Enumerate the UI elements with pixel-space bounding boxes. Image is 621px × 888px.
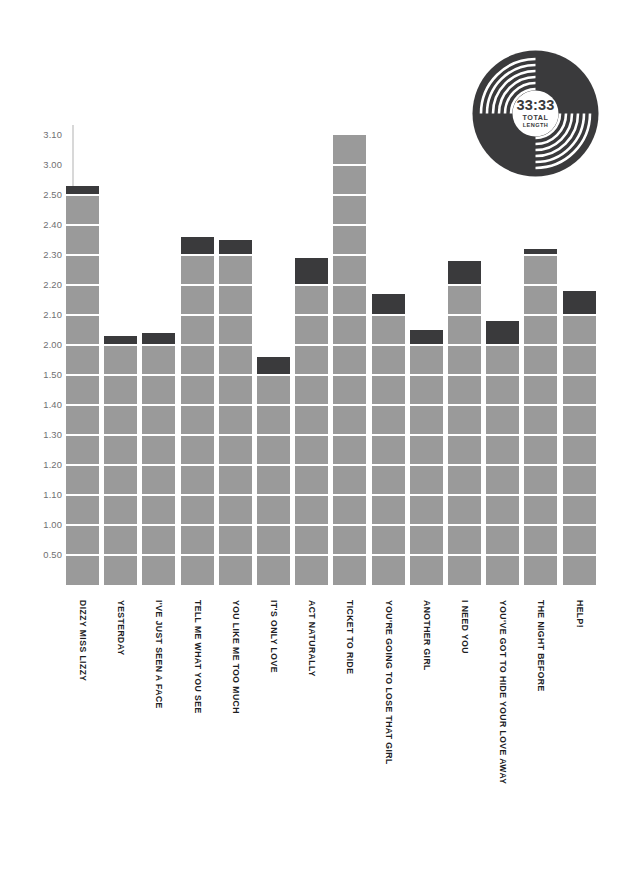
bar-gridline: [372, 464, 405, 466]
bar-remainder-cap: [486, 321, 519, 345]
bar-gridline: [372, 404, 405, 406]
x-axis-label: HELP!: [575, 600, 585, 628]
bar-gridline: [66, 494, 99, 496]
y-tick-label: 3.00: [0, 159, 62, 170]
bar-gridline: [181, 374, 214, 376]
bar-gridline: [448, 284, 481, 286]
bar-gridline: [257, 554, 290, 556]
album-track-length-chart: 33:33 TOTAL LENGTH 3.103.002.502.402.302…: [0, 0, 621, 888]
bar-column: [333, 135, 366, 585]
bar: [563, 291, 596, 585]
bar-gridline: [295, 284, 328, 286]
bar-column: [410, 330, 443, 585]
y-tick-label: 1.40: [0, 399, 62, 410]
bar-gridline: [448, 434, 481, 436]
bar-remainder-cap: [448, 261, 481, 285]
bar-gridline: [257, 374, 290, 376]
bar-gridline: [333, 494, 366, 496]
bar-remainder-cap: [563, 291, 596, 315]
bar-gridline: [448, 494, 481, 496]
bar-gridline: [333, 464, 366, 466]
x-axis-label: YOU LIKE ME TOO MUCH: [231, 600, 241, 714]
bar-gridline: [219, 404, 252, 406]
bar-column: [524, 249, 557, 585]
bar-gridline: [181, 464, 214, 466]
bar-gridline: [372, 524, 405, 526]
bar-gridline: [181, 494, 214, 496]
bar-gridline: [448, 314, 481, 316]
bar-gridline: [486, 374, 519, 376]
bar-remainder-cap: [295, 258, 328, 285]
bar-gridline: [104, 374, 137, 376]
x-axis-label: I'VE JUST SEEN A FACE: [154, 600, 164, 709]
x-axis-label: TICKET TO RIDE: [345, 600, 355, 674]
bar-column: [104, 336, 137, 585]
bar-gridline: [410, 404, 443, 406]
bar-gridline: [142, 524, 175, 526]
bar-gridline: [372, 434, 405, 436]
bar-gridline: [104, 344, 137, 346]
bar-gridline: [333, 224, 366, 226]
bar-gridline: [333, 254, 366, 256]
bar-gridline: [257, 494, 290, 496]
bar-gridline: [448, 374, 481, 376]
bar-gridline: [181, 554, 214, 556]
bar-gridline: [257, 464, 290, 466]
bar-gridline: [333, 284, 366, 286]
bar-gridline: [181, 344, 214, 346]
bar: [219, 240, 252, 585]
bar-gridline: [486, 434, 519, 436]
bar-gridline: [66, 434, 99, 436]
bar-gridline: [104, 434, 137, 436]
bar-gridline: [219, 344, 252, 346]
x-axis-label: DIZZY MISS LIZZY: [78, 600, 88, 682]
bar-gridline: [524, 374, 557, 376]
bar-column: [142, 333, 175, 585]
bar-gridline: [333, 434, 366, 436]
bar-gridline: [219, 254, 252, 256]
bar: [181, 237, 214, 585]
bar-gridline: [333, 404, 366, 406]
y-tick-label: 2.10: [0, 309, 62, 320]
bar-gridline: [333, 164, 366, 166]
bar-gridline: [104, 404, 137, 406]
bar-column: [295, 258, 328, 585]
bar-gridline: [486, 464, 519, 466]
bar-gridline: [219, 494, 252, 496]
bar-gridline: [66, 374, 99, 376]
bar-gridline: [104, 524, 137, 526]
bar-gridline: [524, 464, 557, 466]
bar-gridline: [448, 404, 481, 406]
bar-gridline: [295, 554, 328, 556]
bar-gridline: [104, 554, 137, 556]
bar-gridline: [142, 374, 175, 376]
bar-gridline: [524, 494, 557, 496]
bar-column: [219, 240, 252, 585]
bar-gridline: [563, 464, 596, 466]
x-axis-label: YOU'VE GOT TO HIDE YOUR LOVE AWAY: [498, 600, 508, 785]
bar-gridline: [333, 554, 366, 556]
bar-gridline: [295, 494, 328, 496]
bar-gridline: [142, 494, 175, 496]
bar-gridline: [448, 524, 481, 526]
bar-gridline: [410, 524, 443, 526]
x-axis-label: YESTERDAY: [116, 600, 126, 656]
bar-gridline: [219, 524, 252, 526]
bar-gridline: [524, 314, 557, 316]
x-axis-label: ANOTHER GIRL: [422, 600, 432, 671]
y-tick-label: 1.50: [0, 369, 62, 380]
x-axis-label: TELL ME WHAT YOU SEE: [193, 600, 203, 714]
bar-remainder-cap: [372, 294, 405, 315]
x-axis-label: YOU'RE GOING TO LOSE THAT GIRL: [384, 600, 394, 765]
bar-gridline: [410, 494, 443, 496]
bar-gridline: [219, 314, 252, 316]
bar-gridline: [66, 284, 99, 286]
bar-gridline: [563, 434, 596, 436]
bar-gridline: [257, 524, 290, 526]
bar-column: [181, 237, 214, 585]
bar-column: [66, 186, 99, 585]
bar-gridline: [295, 344, 328, 346]
bar-remainder-cap: [257, 357, 290, 375]
bar-gridline: [410, 344, 443, 346]
x-axis-label: IT'S ONLY LOVE: [269, 600, 279, 673]
